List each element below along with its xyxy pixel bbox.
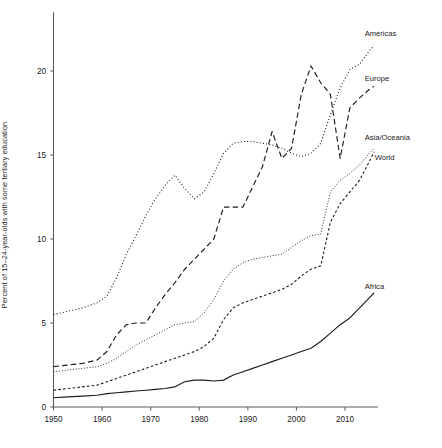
y-tick-label: 0 [41, 403, 46, 412]
x-tick-label: 1960 [93, 415, 112, 424]
y-tick-label: 10 [37, 235, 47, 244]
chart-container: Percent of 15–24-year-olds with some ter… [0, 0, 442, 448]
x-tick-label: 1950 [44, 415, 63, 424]
x-tick-label: 1970 [142, 415, 161, 424]
x-tick-label: 1990 [239, 415, 258, 424]
series-line-americas [54, 46, 375, 315]
y-tick-label: 5 [41, 319, 46, 328]
y-tick-label: 20 [37, 67, 47, 76]
series-label-world: World [375, 153, 395, 162]
x-tick-label: 2010 [336, 415, 355, 424]
series-line-world [54, 152, 375, 391]
series-label-europe: Europe [365, 74, 390, 83]
series-label-americas: Americas [365, 29, 397, 38]
x-tick-label: 2000 [287, 415, 306, 424]
series-line-africa [54, 293, 375, 398]
series-label-africa: Africa [365, 282, 385, 291]
line-chart-plot: 051015201950196019701980199020002010Amer… [0, 0, 442, 448]
x-tick-label: 1980 [190, 415, 209, 424]
y-tick-label: 15 [37, 151, 47, 160]
series-line-europe [54, 66, 375, 367]
series-label-asia-oceania: Asia/Oceania [365, 133, 411, 142]
